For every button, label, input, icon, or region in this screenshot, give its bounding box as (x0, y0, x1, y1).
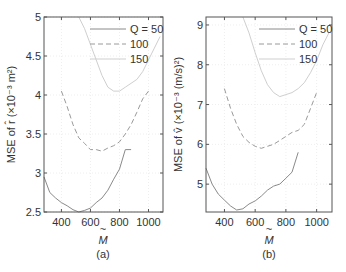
legend-label: 150 (299, 53, 317, 65)
y-tick-label: 3 (35, 167, 41, 179)
chart-panel-b: 400600800100056789M~(b)MSE of v̂ (×10⁻³ … (172, 17, 332, 260)
x-tick-label: 400 (52, 216, 70, 228)
series-line-0 (44, 150, 131, 212)
legend-label: Q = 50 (299, 23, 332, 35)
y-tick-label: 4.5 (26, 50, 41, 62)
x-axis-label: M (264, 234, 274, 246)
y-tick-label: 3.5 (26, 128, 41, 140)
legend-label: 150 (130, 53, 148, 65)
x-tick-label: 800 (277, 216, 295, 228)
series-line-1 (61, 91, 148, 151)
legend: Q = 50100150 (90, 23, 163, 65)
y-tick-label: 2.5 (26, 206, 41, 218)
y-tick-label: 5 (35, 11, 41, 23)
svg-text:~: ~ (100, 223, 106, 235)
x-axis-label: M (98, 234, 108, 246)
x-tick-label: 600 (81, 216, 99, 228)
legend-label: 100 (130, 38, 148, 50)
y-axis-label: MSE of v̂ (×10⁻³ (m/s)²) (172, 57, 184, 172)
series-line-1 (224, 89, 316, 149)
figure: 40060080010002.533.544.55M~(a)MSE of r̂ … (0, 0, 346, 272)
legend-label: Q = 50 (130, 23, 163, 35)
y-tick-label: 7 (197, 99, 203, 111)
legend-label: 100 (299, 38, 317, 50)
x-tick-label: 600 (246, 216, 264, 228)
chart-panel-a: 40060080010002.533.544.55M~(a)MSE of r̂ … (4, 11, 163, 260)
x-tick-label: 400 (215, 216, 233, 228)
y-tick-label: 9 (197, 19, 203, 31)
svg-text:~: ~ (266, 223, 272, 235)
y-axis-label: MSE of r̂ (×10⁻³ m²) (4, 66, 17, 163)
x-tick-label: 800 (110, 216, 128, 228)
x-tick-label: 1000 (304, 216, 328, 228)
y-tick-label: 4 (35, 89, 41, 101)
panel-label: (a) (96, 248, 109, 260)
y-tick-label: 8 (197, 59, 203, 71)
y-tick-label: 5 (197, 178, 203, 190)
series-line-0 (206, 152, 298, 210)
legend: Q = 50100150 (259, 23, 332, 65)
panel-label: (b) (262, 248, 275, 260)
y-tick-label: 6 (197, 138, 203, 150)
x-tick-label: 1000 (136, 216, 160, 228)
